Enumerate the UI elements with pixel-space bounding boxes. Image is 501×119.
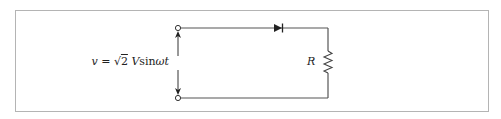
terminal-top-icon [175,25,180,30]
source-voltage-label: v = √2 Vsinωt [89,56,171,68]
terminal-bottom-icon [175,95,180,100]
circuit-diagram [0,0,501,119]
label-eq: = [98,55,114,68]
diode-icon [274,24,283,33]
resistor-icon [324,51,332,73]
label-amplitude: V [128,55,139,68]
voltage-arrow-icon [175,31,181,95]
label-func: sin [139,55,155,68]
resistor-label: R [307,56,315,68]
label-arg: ωt [156,55,169,68]
